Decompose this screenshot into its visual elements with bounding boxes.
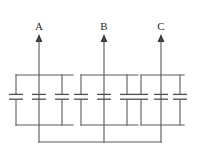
phase-group-c: C <box>134 20 187 142</box>
capacitor-branch-b-1 <box>74 75 88 125</box>
capacitor-branch-c-1 <box>134 75 148 125</box>
phase-label-c: C <box>157 20 164 32</box>
capacitor-branch-b-3 <box>120 75 134 125</box>
capacitor-branch-c-3 <box>173 75 187 125</box>
phase-group-a: A <box>9 20 73 142</box>
schematic-canvas: A <box>0 0 198 161</box>
capacitor-branch-a-3 <box>55 75 69 125</box>
capacitor-branch-a-1 <box>9 75 23 125</box>
phase-label-a: A <box>35 20 43 32</box>
phase-group-b: B <box>74 20 138 142</box>
three-phase-capacitor-bank-schematic: A <box>0 0 198 161</box>
phase-label-b: B <box>100 20 107 32</box>
